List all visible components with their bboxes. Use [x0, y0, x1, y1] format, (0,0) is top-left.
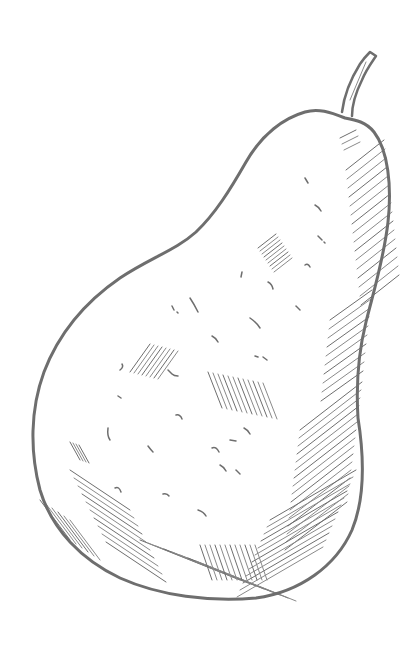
hatch-stroke: [344, 142, 360, 150]
skin-speck: [176, 415, 182, 419]
hatch-stroke: [299, 390, 361, 438]
hatch-stroke: [295, 422, 357, 470]
skin-speck: [163, 494, 169, 496]
hatch-stroke: [86, 502, 146, 542]
skin-speck: [250, 318, 260, 328]
hatch-stroke: [235, 545, 247, 580]
skin-speck: [230, 440, 236, 441]
skin-speck: [268, 282, 273, 289]
hatch-stroke: [246, 526, 332, 576]
hatch-stroke: [340, 130, 356, 138]
skin-speck: [305, 264, 310, 267]
hatch-stroke: [102, 534, 162, 574]
skin-speck: [212, 336, 218, 342]
skin-speck: [220, 465, 226, 471]
skin-speck: [190, 298, 198, 312]
hatch-stroke: [296, 414, 358, 462]
skin-speck: [120, 364, 123, 370]
pear-skin-speckles: [108, 178, 325, 516]
hatch-stroke: [82, 494, 142, 534]
hatch-stroke: [245, 545, 257, 580]
skin-speck: [108, 428, 110, 440]
hatch-stroke: [240, 540, 326, 590]
hatch-stroke: [78, 486, 138, 526]
hatch-stroke: [90, 510, 150, 550]
pear-sketch-canvas: [0, 0, 412, 654]
skin-speck: [241, 272, 242, 277]
skin-speck: [148, 446, 153, 452]
hatch-stroke: [76, 444, 86, 462]
hatch-stroke: [350, 176, 388, 206]
hatch-stroke: [240, 545, 252, 580]
hatch-stroke: [258, 498, 344, 548]
skin-speck: [315, 205, 321, 211]
hatch-stroke: [349, 167, 387, 197]
skin-speck: [212, 448, 219, 453]
pear-stem: [342, 52, 376, 116]
hatch-stroke: [94, 518, 154, 558]
hatch-stroke: [357, 239, 395, 269]
skin-speck: [305, 178, 308, 183]
skin-speck: [118, 396, 121, 398]
hatch-stroke: [353, 203, 391, 233]
hatch-stroke: [348, 158, 386, 188]
hatch-stroke: [52, 508, 82, 548]
hatch-stroke: [74, 478, 134, 518]
skin-speck: [198, 510, 206, 516]
hatch-stroke: [293, 438, 355, 486]
hatch-stroke: [346, 140, 384, 170]
hatch-stroke: [252, 512, 338, 562]
hatch-stroke: [351, 185, 389, 215]
skin-speck: [168, 370, 178, 376]
hatch-stroke: [352, 194, 390, 224]
hatch-stroke: [70, 520, 100, 560]
hatch-stroke: [70, 442, 80, 460]
hatch-stroke: [342, 136, 358, 144]
hatch-stroke: [249, 519, 335, 569]
pear-illustration: [0, 0, 412, 654]
hatch-stroke: [73, 443, 83, 461]
hatch-stroke: [330, 290, 372, 320]
hatch-stroke: [264, 484, 350, 534]
hatch-stroke: [210, 545, 222, 580]
skin-speck: [318, 236, 325, 243]
skin-speck: [236, 470, 240, 474]
skin-speck: [255, 356, 267, 360]
hatch-stroke: [361, 275, 399, 305]
hatch-stroke: [300, 382, 362, 430]
hatch-stroke: [196, 561, 296, 601]
hatch-stroke: [205, 545, 217, 580]
pear-shading-hatching: [40, 130, 399, 601]
skin-speck: [172, 306, 178, 313]
hatch-stroke: [298, 398, 360, 446]
skin-speck: [296, 306, 300, 310]
hatch-stroke: [356, 230, 394, 260]
skin-speck: [244, 428, 250, 434]
hatch-stroke: [347, 149, 385, 179]
hatch-stroke: [294, 430, 356, 478]
hatch-stroke: [297, 406, 359, 454]
hatch-stroke: [79, 445, 89, 463]
skin-speck: [115, 488, 121, 493]
hatch-stroke: [200, 545, 212, 580]
hatch-stroke: [98, 526, 158, 566]
hatch-stroke: [46, 504, 76, 544]
hatch-stroke: [255, 505, 341, 555]
pear-body-outline: [33, 110, 390, 599]
hatch-stroke: [215, 545, 227, 580]
hatch-stroke: [230, 545, 242, 580]
hatch-stroke: [267, 477, 353, 527]
hatch-stroke: [261, 491, 347, 541]
hatch-stroke: [237, 547, 323, 597]
